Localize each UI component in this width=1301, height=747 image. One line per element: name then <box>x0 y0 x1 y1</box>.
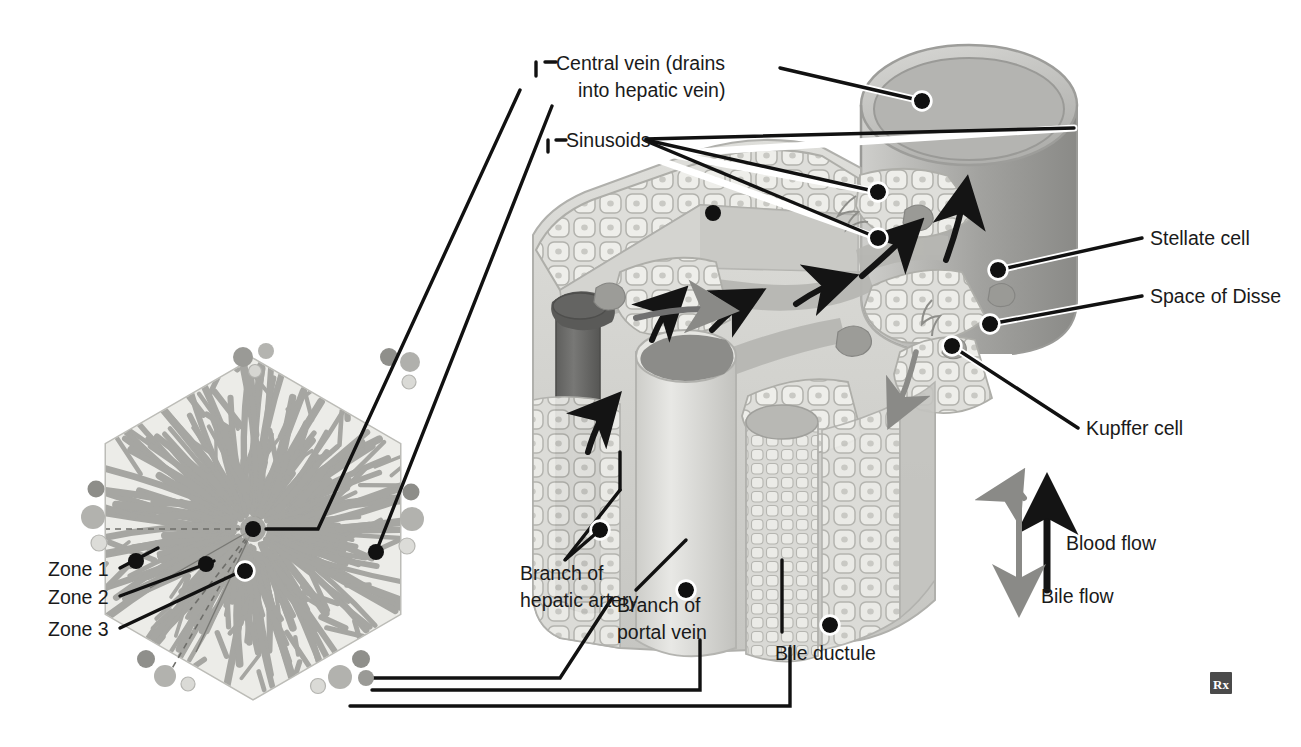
sinusoid-stroke <box>161 514 206 518</box>
rx-watermark: Rx <box>1210 672 1232 694</box>
label-zone-2: Zone 2 <box>48 586 109 608</box>
figure-canvas: Central vein (drains into hepatic vein) … <box>0 0 1301 747</box>
bile-flow-arrow <box>1013 478 1024 606</box>
label-central-vein-line1: Central vein (drains <box>556 52 725 74</box>
sinusoid-stroke <box>114 414 129 430</box>
label-blood-flow: Blood flow <box>1066 532 1157 554</box>
label-portal-vein-line1: Branch of <box>617 594 701 616</box>
liver-lobule-diagram: Central vein (drains into hepatic vein) … <box>0 0 1301 747</box>
label-stellate-cell: Stellate cell <box>1150 227 1250 249</box>
label-portal-vein-line2: portal vein <box>617 621 707 643</box>
portal-triad <box>81 481 107 552</box>
label-bile-ductule: Bile ductule <box>775 642 876 664</box>
sinusoid-stroke <box>337 525 369 528</box>
label-zone-3: Zone 3 <box>48 618 109 640</box>
label-space-of-disse: Space of Disse <box>1150 285 1281 307</box>
portal-triad <box>399 484 424 555</box>
label-bile-flow: Bile flow <box>1041 585 1115 607</box>
sinusoid-stroke <box>346 585 369 586</box>
label-hepatic-artery-line1: Branch of <box>520 562 604 584</box>
label-kupffer-cell: Kupffer cell <box>1086 417 1183 439</box>
sinusoid-stroke <box>340 410 342 445</box>
sinusoid-stroke <box>421 549 435 558</box>
rx-watermark-text: Rx <box>1213 677 1229 692</box>
label-sinusoids: Sinusoids <box>566 129 651 151</box>
label-central-vein-line2: into hepatic vein) <box>578 79 725 101</box>
sinusoid-stroke <box>227 588 229 627</box>
sinusoid-stroke <box>347 401 348 419</box>
label-zone-1: Zone 1 <box>48 558 109 580</box>
